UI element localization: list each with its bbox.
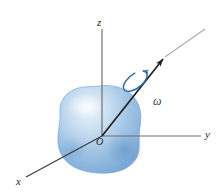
blob-shadow-lower-left [57,137,87,163]
rigid-body-blob [57,85,143,173]
rotation-axis-extension [165,29,205,57]
x-axis-label: x [16,176,21,187]
rotating-body-figure: z y x O ω [0,0,221,194]
blob-highlight [66,93,106,119]
blob-shadow [105,133,143,167]
figure-canvas [0,0,221,194]
angular-velocity-label: ω [153,95,161,107]
y-axis-label: y [205,129,210,140]
origin-label: O [96,137,103,147]
z-axis-label: z [97,17,101,28]
